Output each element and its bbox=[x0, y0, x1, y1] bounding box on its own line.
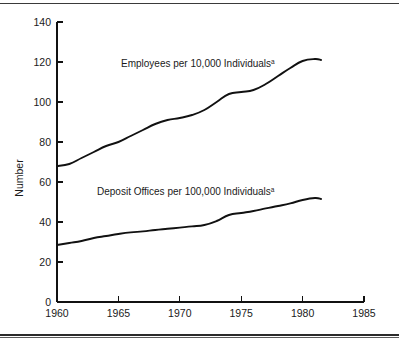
series-label-employees: Employees per 10,000 Individualsa bbox=[121, 58, 275, 70]
y-tick-label-140: 140 bbox=[33, 16, 51, 28]
y-tick-label-100: 100 bbox=[33, 96, 51, 108]
series-line-deposit-offices bbox=[57, 198, 321, 245]
y-tick-label-80: 80 bbox=[39, 136, 51, 148]
x-tick-label-1975: 1975 bbox=[230, 307, 254, 319]
series-label-employees-footnote: a bbox=[271, 58, 275, 65]
y-axis-title: Number bbox=[13, 159, 25, 197]
series-line-employees bbox=[57, 59, 321, 166]
series-label-deposit-offices-text: Deposit Offices per 100,000 Individuals bbox=[97, 186, 271, 197]
x-tick-label-1970: 1970 bbox=[168, 307, 192, 319]
x-tick-label-1980: 1980 bbox=[291, 307, 315, 319]
series-label-deposit-offices-footnote: a bbox=[271, 186, 275, 193]
x-axis-ticks bbox=[118, 296, 364, 302]
x-tick-label-1960: 1960 bbox=[45, 307, 69, 319]
bottom-divider-rule bbox=[0, 334, 399, 336]
y-axis-ticks bbox=[57, 22, 63, 262]
y-axis-tick-labels: 140 120 100 80 60 40 20 0 bbox=[33, 16, 51, 308]
series-label-deposit-offices: Deposit Offices per 100,000 Individualsa bbox=[97, 186, 275, 198]
x-tick-label-1985: 1985 bbox=[352, 307, 376, 319]
y-tick-label-40: 40 bbox=[39, 216, 51, 228]
figure-container: 140 120 100 80 60 40 20 0 1960 1965 1970… bbox=[0, 0, 399, 343]
x-tick-label-1965: 1965 bbox=[107, 307, 131, 319]
bottom-divider-rule-thin bbox=[0, 337, 399, 338]
y-tick-label-60: 60 bbox=[39, 176, 51, 188]
x-axis-tick-labels: 1960 1965 1970 1975 1980 1985 bbox=[45, 307, 376, 319]
y-tick-label-20: 20 bbox=[39, 256, 51, 268]
line-chart: 140 120 100 80 60 40 20 0 1960 1965 1970… bbox=[0, 0, 399, 343]
series-label-employees-text: Employees per 10,000 Individuals bbox=[121, 58, 271, 69]
y-tick-label-120: 120 bbox=[33, 56, 51, 68]
